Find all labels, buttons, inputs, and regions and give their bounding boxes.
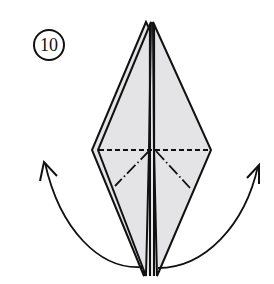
origami-diagram	[0, 0, 274, 284]
right-arrowhead-icon	[247, 165, 259, 184]
